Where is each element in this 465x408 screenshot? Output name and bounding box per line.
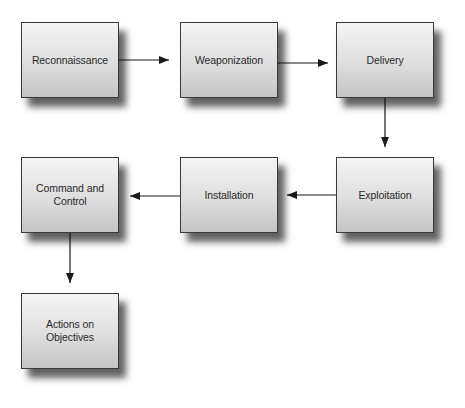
stage-exploitation: Exploitation (336, 157, 434, 233)
kill-chain-diagram: Reconnaissance Weaponization Delivery Ex… (0, 0, 465, 408)
stage-label: Reconnaissance (32, 54, 108, 67)
stage-label: Delivery (366, 54, 403, 67)
stage-label: Exploitation (358, 189, 411, 202)
stage-delivery: Delivery (336, 22, 434, 98)
stage-actions-on-objectives: Actions on Objectives (21, 293, 119, 369)
stage-label: Actions on Objectives (40, 318, 100, 344)
stage-command-and-control: Command and Control (21, 157, 119, 233)
stage-installation: Installation (180, 157, 278, 233)
stage-label: Weaponization (195, 54, 263, 67)
stage-weaponization: Weaponization (180, 22, 278, 98)
stage-label: Command and Control (35, 182, 105, 208)
stage-reconnaissance: Reconnaissance (21, 22, 119, 98)
stage-label: Installation (205, 189, 254, 202)
